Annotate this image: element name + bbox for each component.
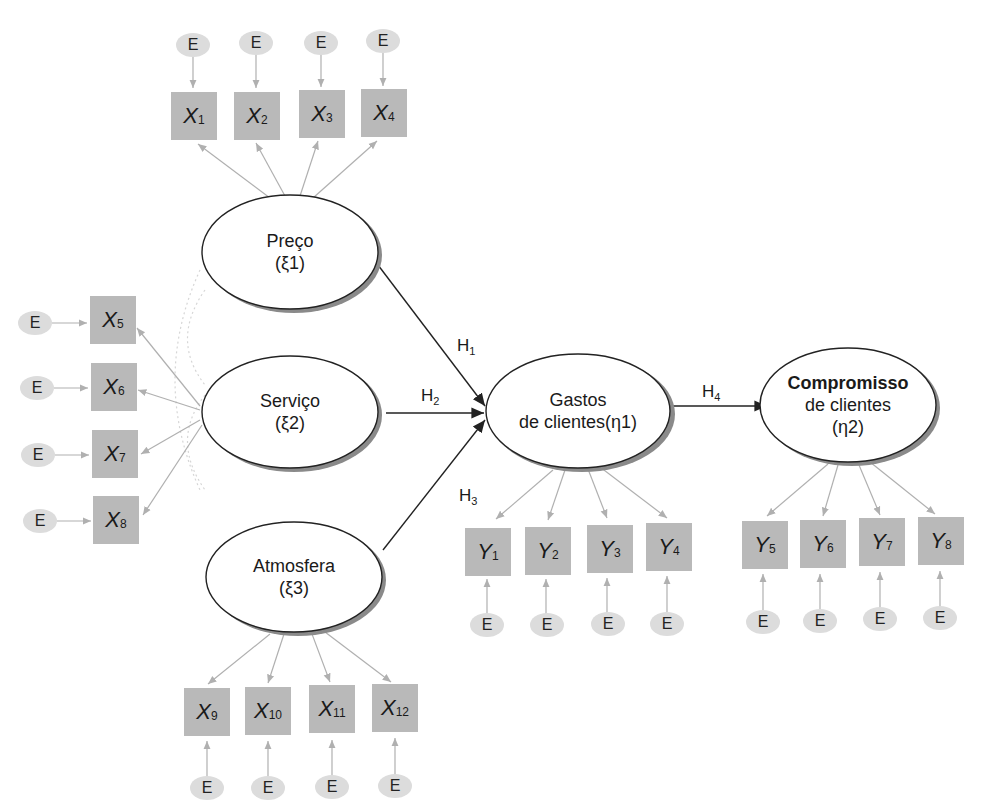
error-node: E (530, 613, 564, 637)
hypothesis-label-h2: H2 (421, 386, 439, 407)
error-node: E (18, 311, 52, 335)
latent-symbol: (ξ2) (275, 412, 305, 434)
error-arrows-y5-y8 (763, 571, 940, 612)
latent-servico: Serviço (ξ2) (202, 360, 378, 464)
error-node: E (591, 612, 625, 636)
latent-atmosfera: Atmosfera (ξ3) (206, 525, 382, 629)
latent-name-line2: de clientes (805, 394, 891, 416)
error-arrows-y1-y4 (487, 576, 667, 615)
error-arrows-top (193, 52, 383, 88)
indicator-x12: X12 (372, 684, 418, 732)
error-node: E (20, 376, 54, 400)
latent-name: Compromisso (787, 372, 908, 394)
error-node: E (21, 443, 55, 467)
hypothesis-label-h1: H1 (457, 336, 475, 357)
indicator-x3: X3 (299, 90, 345, 138)
indicator-x6: X6 (91, 363, 137, 411)
error-node: E (304, 31, 338, 55)
hypothesis-label-h3: H3 (459, 486, 477, 507)
error-node: E (650, 612, 684, 636)
error-node: E (803, 609, 837, 633)
error-node: E (923, 606, 957, 630)
latent-name-line2: de clientes(η1) (519, 411, 637, 433)
indicator-y6: Y6 (800, 520, 846, 568)
indicator-y2: Y2 (525, 527, 571, 575)
indicator-y7: Y7 (859, 518, 905, 566)
indicator-x2: X2 (234, 92, 280, 140)
indicator-x7: X7 (92, 430, 138, 478)
indicator-x10: X10 (245, 687, 291, 735)
loading-arrows-atmosfera (208, 632, 391, 684)
latent-symbol: (η2) (832, 416, 864, 438)
loading-arrows-gastos (496, 467, 667, 520)
latent-symbol: (ξ1) (275, 252, 305, 274)
latent-name: Gastos (549, 389, 606, 411)
error-node: E (470, 613, 504, 637)
indicator-y8: Y8 (918, 517, 964, 565)
loading-arrows-compromisso (767, 462, 935, 516)
error-node: E (239, 31, 273, 55)
indicator-x4: X4 (361, 89, 407, 137)
latent-name: Serviço (260, 390, 320, 412)
latent-name: Atmosfera (253, 555, 335, 577)
error-node: E (23, 509, 57, 533)
error-node: E (378, 774, 412, 798)
error-node: E (315, 775, 349, 799)
error-node: E (190, 776, 224, 800)
error-node: E (366, 29, 400, 53)
latent-preco: Preço (ξ1) (202, 200, 378, 304)
indicator-y5: Y5 (742, 521, 788, 569)
indicator-x9: X9 (184, 688, 230, 736)
error-node: E (746, 610, 780, 634)
indicator-x1: X1 (171, 92, 217, 140)
latent-compromisso: Compromisso de clientes (η2) (760, 350, 936, 460)
latent-gastos: Gastos de clientes(η1) (486, 358, 670, 464)
indicator-x11: X11 (309, 685, 355, 733)
loading-arrows-servico (137, 328, 202, 515)
indicator-y3: Y3 (587, 525, 633, 573)
error-node: E (251, 776, 285, 800)
error-arrows-bottom (207, 738, 395, 778)
latent-name: Preço (266, 230, 313, 252)
indicator-y1: Y1 (465, 528, 511, 576)
latent-symbol: (ξ3) (279, 577, 309, 599)
hypothesis-label-h4: H4 (702, 382, 720, 403)
loading-arrows-preco (198, 141, 377, 198)
indicator-x8: X8 (93, 496, 139, 544)
indicator-x5: X5 (90, 296, 136, 344)
error-node: E (863, 607, 897, 631)
error-node: E (176, 33, 210, 57)
indicator-y4: Y4 (646, 523, 692, 571)
error-arrows-left (52, 323, 91, 521)
